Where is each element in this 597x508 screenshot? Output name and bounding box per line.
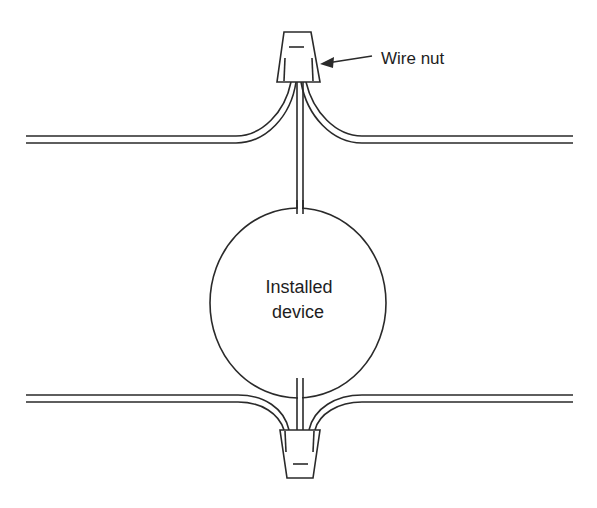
bottom-wire-nut [280,430,320,478]
wiring-diagram: Wire nut Installed device [0,0,597,508]
installed-device-label-line1: Installed [265,277,332,297]
device-lead-top [297,82,303,208]
top-wire-nut [277,32,320,82]
top-left-cable [26,82,296,143]
bottom-left-cable [26,395,289,430]
bottom-right-cable [309,395,573,430]
top-right-cable [301,82,573,143]
installed-device-label-line2: device [272,302,324,322]
wire-nut-callout-arrow [320,56,372,68]
arrowhead-icon [320,57,334,68]
wire-nut-label: Wire nut [381,49,445,68]
